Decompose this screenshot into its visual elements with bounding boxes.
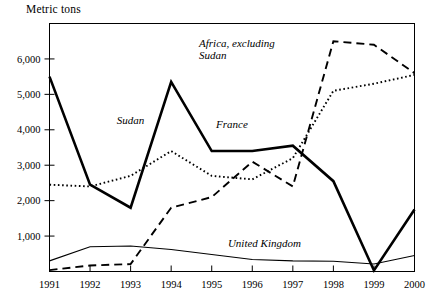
x-axis-tick-label: 1993 xyxy=(120,279,141,290)
series-line-france xyxy=(50,75,415,187)
x-axis-tick-label: 1991 xyxy=(39,279,60,290)
x-axis-tick-label: 2000 xyxy=(404,279,425,290)
x-axis-tick-label: 1998 xyxy=(323,279,344,290)
series-label-france: France xyxy=(215,118,248,130)
x-axis-tick-label: 1997 xyxy=(282,279,303,290)
x-axis-tick-label: 1999 xyxy=(363,279,384,290)
x-axis-tick-label: 1992 xyxy=(80,279,101,290)
x-axis-tick-label: 1995 xyxy=(201,279,222,290)
y-axis-tick-label: 6,000 xyxy=(17,54,41,65)
y-axis-tick-label: 5,000 xyxy=(17,89,41,100)
y-axis-tick-label: 2,000 xyxy=(17,195,41,206)
line-chart: Metric tons 1,0002,0003,0004,0005,0006,0… xyxy=(0,0,442,299)
plot-frame xyxy=(50,24,415,272)
x-axis-tick-label: 1996 xyxy=(242,279,263,290)
y-axis-tick-label: 1,000 xyxy=(17,231,41,242)
series-label-africa-excluding-sudan: Africa, excludingSudan xyxy=(198,37,275,61)
y-axis-tick-label: 4,000 xyxy=(17,124,41,135)
series-label-sudan: Sudan xyxy=(117,114,145,126)
y-axis-tick-label: 3,000 xyxy=(17,160,41,171)
x-axis-tick-label: 1994 xyxy=(161,279,183,290)
series-label-united-kingdom: United Kingdom xyxy=(228,237,301,249)
series-line-africa-excluding-sudan xyxy=(50,41,415,270)
chart-generated-content: 1,0002,0003,0004,0005,0006,0001991199219… xyxy=(17,24,425,290)
chart-plot-area: 1,0002,0003,0004,0005,0006,0001991199219… xyxy=(0,0,442,299)
